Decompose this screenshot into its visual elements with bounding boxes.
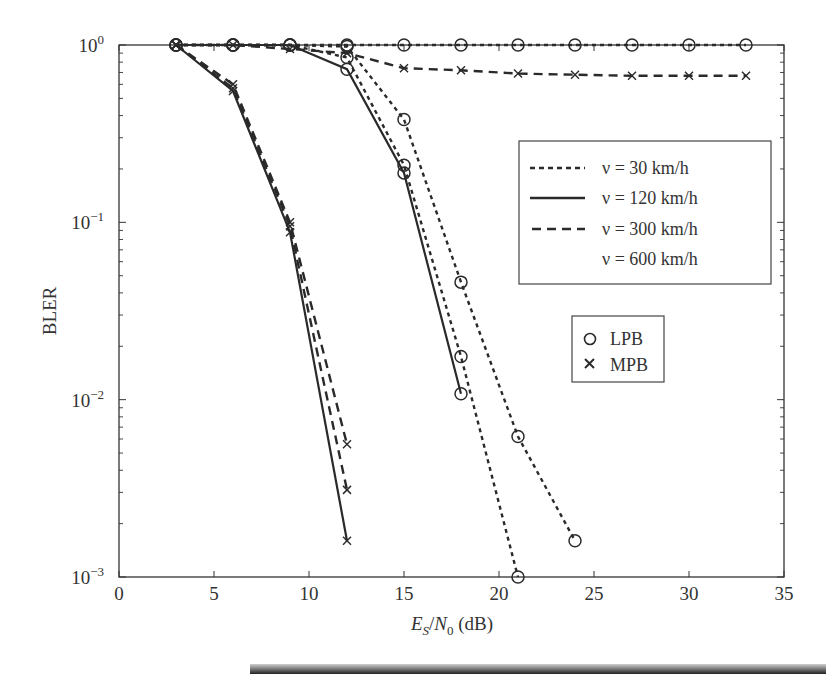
y-tick-label: 10−3 [71, 564, 104, 588]
x-tick-label: 20 [490, 583, 509, 604]
x-tick-label: 10 [300, 583, 319, 604]
x-axis-label: ES/N0 (dB) [410, 613, 493, 638]
x-tick-label: 35 [775, 583, 794, 604]
legend-label-mpb: MPB [610, 355, 648, 375]
x-tick-label: 0 [114, 583, 124, 604]
series-mpb-v-600-km-h [172, 41, 750, 80]
x-marker-icon [229, 80, 237, 88]
bler-chart: 05101520253035 10010−110−210−3 BLER ES/N… [0, 0, 826, 674]
x-marker-icon [343, 440, 351, 448]
x-tick-label: 30 [680, 583, 699, 604]
x-tick-label: 15 [395, 583, 414, 604]
legend-label-lpb: LPB [610, 329, 643, 349]
y-tick-label: 100 [79, 32, 105, 56]
series-mpb-v-30-km-h [172, 41, 351, 494]
y-tick-label: 10−1 [71, 209, 104, 233]
y-axis-ticks: 10010−110−210−3 [71, 32, 784, 588]
x-marker-icon [742, 72, 750, 80]
series-lpb-v-120-km-h [170, 39, 467, 400]
legend-label-30: ν = 30 km/h [602, 158, 689, 178]
series-mpb-v-120-km-h [172, 41, 351, 545]
y-tick-label: 10−2 [71, 387, 104, 411]
legend-label-600: ν = 600 km/h [602, 249, 698, 269]
legend-label-300: ν = 300 km/h [602, 219, 698, 239]
legend-speed: ν = 30 km/h ν = 120 km/h ν = 300 km/h ν … [519, 141, 771, 284]
plot-area [119, 45, 784, 577]
x-axis-ticks: 05101520253035 [114, 45, 793, 604]
y-axis-label: BLER [39, 286, 60, 335]
series-mpb-v-300-km-h [172, 41, 351, 448]
circle-marker-icon [398, 114, 410, 126]
x-tick-label: 5 [209, 583, 219, 604]
circle-marker-icon [569, 535, 581, 547]
series-lpb-v-300-km-h [170, 39, 581, 547]
plot-frame [119, 45, 784, 577]
legend-marker: LPB MPB [572, 316, 664, 382]
x-tick-label: 25 [585, 583, 604, 604]
legend-label-120: ν = 120 km/h [602, 188, 698, 208]
series-layer [170, 39, 752, 583]
page-edge-shadow [250, 664, 826, 674]
